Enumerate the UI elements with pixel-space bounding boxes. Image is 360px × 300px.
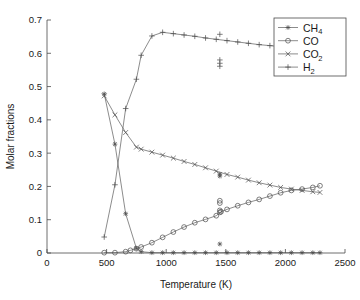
y-tick-label: 0 xyxy=(37,247,42,258)
series-point-CO2 xyxy=(123,130,128,135)
x-marker xyxy=(113,112,118,117)
legend-label-CO2: CO xyxy=(303,48,319,60)
legend-marker-CH4 xyxy=(286,25,291,30)
series-point-CO2 xyxy=(160,153,165,158)
series-point-CH4 xyxy=(257,250,262,255)
plus-marker xyxy=(256,42,262,48)
series-point-CH4 xyxy=(225,250,230,255)
series-point-CH4 xyxy=(289,250,294,255)
x-tick-label: 2500 xyxy=(334,257,355,268)
plus-marker xyxy=(267,43,273,49)
series-point-CO2 xyxy=(134,145,139,150)
star-marker xyxy=(139,249,144,254)
series-point-CH4 xyxy=(160,250,165,255)
star-marker xyxy=(257,250,262,255)
star-marker xyxy=(225,250,230,255)
x-marker xyxy=(268,183,273,188)
series-point-CH4 xyxy=(123,211,128,216)
series-point-CO2 xyxy=(182,159,187,164)
series-point-H2 xyxy=(256,42,262,48)
series-point-CH4 xyxy=(139,249,144,254)
plus-marker xyxy=(192,34,198,40)
x-marker xyxy=(160,153,165,158)
legend-subscript-CO2: 2 xyxy=(318,54,322,63)
chart-figure: 0500100015002000250000.10.20.30.40.50.60… xyxy=(0,0,360,300)
series-point-H2 xyxy=(267,43,273,49)
series-CO2 xyxy=(102,93,323,194)
series-point-H2 xyxy=(224,38,230,44)
star-marker xyxy=(318,250,323,255)
plus-marker xyxy=(246,41,252,47)
star-marker xyxy=(160,250,165,255)
x-marker xyxy=(182,159,187,164)
series-line-CH4 xyxy=(104,94,320,253)
series-point-H2 xyxy=(160,30,166,36)
series-CH4 xyxy=(102,91,323,255)
x-tick-label: 0 xyxy=(44,257,49,268)
molar-fractions-chart: 0500100015002000250000.10.20.30.40.50.60… xyxy=(0,0,360,300)
series-point-CO2 xyxy=(246,178,251,183)
star-marker xyxy=(300,250,305,255)
star-marker xyxy=(182,250,187,255)
series-point-H2 xyxy=(181,32,187,38)
x-marker xyxy=(225,172,230,177)
series-point-CH4 xyxy=(246,250,251,255)
star-marker xyxy=(214,250,219,255)
x-marker xyxy=(257,180,262,185)
x-marker xyxy=(139,147,144,152)
series-point-CO2 xyxy=(171,156,176,161)
series-point-CH4 xyxy=(310,250,315,255)
plus-marker xyxy=(203,35,209,41)
outlier-point-H2 xyxy=(217,32,223,38)
legend-subscript-H2: 2 xyxy=(311,67,315,76)
y-tick-label: 0.7 xyxy=(29,14,42,25)
series-point-H2 xyxy=(123,106,129,112)
x-marker xyxy=(171,156,176,161)
x-tick-label: 500 xyxy=(99,257,115,268)
star-marker xyxy=(217,242,222,247)
series-point-CH4 xyxy=(182,250,187,255)
series-point-H2 xyxy=(112,182,118,188)
outlier-point-H2 xyxy=(217,63,223,69)
series-point-CH4 xyxy=(203,250,208,255)
x-tick-label: 1500 xyxy=(215,257,236,268)
series-point-CO2 xyxy=(139,147,144,152)
star-marker xyxy=(149,250,154,255)
outlier-point-CO2 xyxy=(217,174,222,179)
series-point-H2 xyxy=(138,52,144,58)
star-marker xyxy=(192,250,197,255)
outlier-point-CH4 xyxy=(217,242,222,247)
series-point-H2 xyxy=(192,34,198,40)
star-marker xyxy=(171,250,176,255)
series-point-H2 xyxy=(134,76,140,82)
series-point-H2 xyxy=(246,41,252,47)
series-point-CO2 xyxy=(268,183,273,188)
series-point-CO2 xyxy=(192,162,197,167)
series-point-H2 xyxy=(203,35,209,41)
star-marker xyxy=(310,250,315,255)
plus-marker xyxy=(217,63,223,69)
plus-marker xyxy=(138,52,144,58)
y-axis-title: Molar fractions xyxy=(5,104,16,170)
plus-marker xyxy=(101,234,107,240)
x-tick-label: 1000 xyxy=(156,257,177,268)
chart-legend: CH4COCO2H2 xyxy=(274,18,346,76)
series-point-CH4 xyxy=(318,250,323,255)
series-point-CH4 xyxy=(214,250,219,255)
x-marker xyxy=(149,150,154,155)
star-marker xyxy=(203,250,208,255)
plus-marker xyxy=(181,32,187,38)
series-point-CO2 xyxy=(214,169,219,174)
series-point-CO2 xyxy=(149,150,154,155)
y-tick-label: 0.1 xyxy=(29,214,42,225)
legend-label-CH4: CH xyxy=(303,22,318,34)
series-point-H2 xyxy=(171,31,177,37)
y-tick-label: 0.5 xyxy=(29,81,42,92)
star-marker xyxy=(123,211,128,216)
x-marker xyxy=(123,130,128,135)
x-marker xyxy=(235,175,240,180)
series-point-CO2 xyxy=(203,165,208,170)
series-point-CH4 xyxy=(268,250,273,255)
x-marker xyxy=(192,162,197,167)
series-point-CH4 xyxy=(149,250,154,255)
